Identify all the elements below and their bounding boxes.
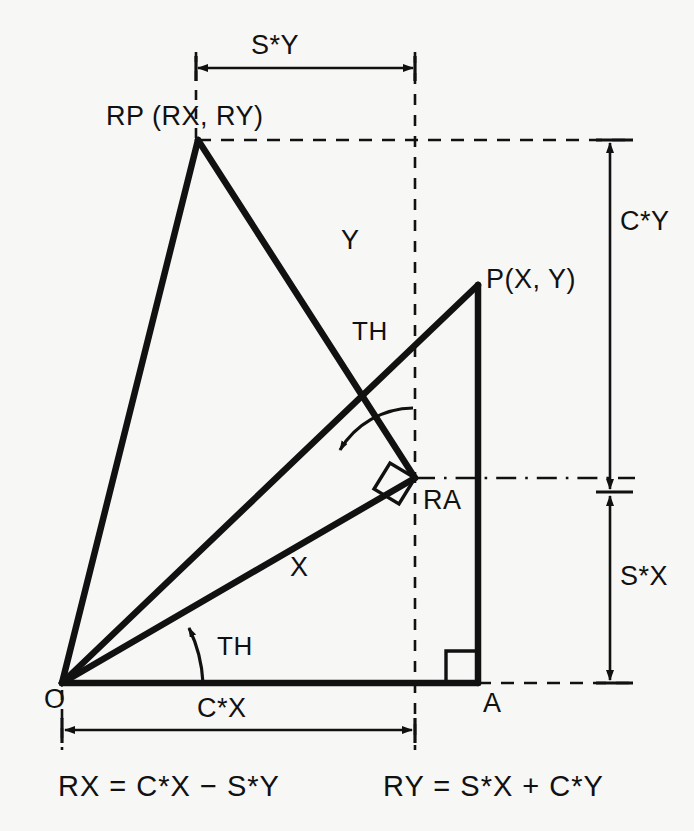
label-rotated-point: RP (RX, RY): [106, 103, 264, 130]
rx-formula: RX = C*X − S*Y: [58, 772, 280, 801]
label-dimension-cy: C*Y: [620, 208, 670, 235]
edge-rp-ra: [198, 140, 415, 478]
label-foot-a: A: [483, 690, 502, 717]
construction-lines: [62, 52, 635, 750]
label-origin: O: [44, 686, 66, 713]
label-right-angle-point: RA: [423, 487, 462, 514]
label-angle-th-upper: TH: [352, 318, 388, 344]
label-dimension-sx: S*X: [620, 563, 668, 590]
label-dimension-cx: C*X: [197, 695, 247, 722]
diagram-vector-layer: [0, 0, 694, 831]
right-angle-marker-a: [446, 651, 478, 683]
label-angle-th-lower: TH: [217, 633, 253, 659]
rotation-diagram: RP (RX, RY) P(X, Y) RA O A Y X TH TH S*Y…: [0, 0, 694, 831]
label-point-p: P(X, Y): [486, 266, 576, 293]
ry-formula: RY = S*X + C*Y: [383, 772, 604, 801]
edge-o-rp: [62, 140, 198, 683]
dimension-lines: [62, 56, 633, 743]
label-dimension-sy: S*Y: [251, 32, 299, 59]
angle-arc-th-origin: [189, 628, 203, 683]
label-segment-x: X: [290, 554, 309, 581]
label-segment-y: Y: [341, 227, 360, 254]
